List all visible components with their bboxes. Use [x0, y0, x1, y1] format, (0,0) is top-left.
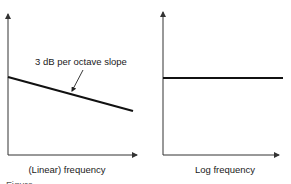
log-frequency-chart: Log frequency	[163, 12, 283, 175]
figure-caption-fragment: Figure	[6, 179, 33, 184]
slope-annotation: 3 dB per octave slope	[35, 56, 127, 67]
x-axis-label-linear: (Linear) frequency	[28, 164, 105, 175]
linear-frequency-chart: 3 dB per octave slope (Linear) frequency	[8, 14, 137, 175]
sloping-response-line	[8, 77, 133, 111]
x-axis-label-log: Log frequency	[195, 164, 255, 175]
annotation-arrow	[72, 70, 83, 91]
figure: 3 dB per octave slope (Linear) frequency…	[0, 0, 291, 184]
